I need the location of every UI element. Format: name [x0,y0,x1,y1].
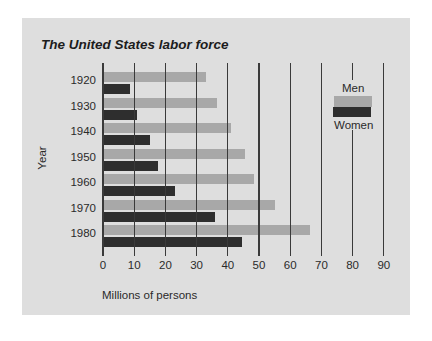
bar-men-1920 [103,72,206,82]
gridline-0 [102,63,103,256]
legend-label-women: Women [334,119,373,131]
y-tick-label: 1950 [62,151,96,163]
bar-women-1980 [103,237,242,247]
bar-men-1970 [103,200,275,210]
gridline-10 [134,63,135,256]
y-tick-label: 1970 [62,202,96,214]
x-tick-label: 50 [244,259,274,271]
bar-men-1950 [103,149,245,159]
bar-men-1930 [103,98,217,108]
legend-swatch-men [334,96,372,107]
gridline-30 [196,63,197,256]
gridline-90 [383,63,384,256]
bar-men-1940 [103,123,231,133]
y-tick-label: 1940 [62,125,96,137]
gridline-40 [227,63,228,256]
y-tick-label: 1960 [62,176,96,188]
x-tick-label: 30 [182,259,212,271]
gridline-60 [290,63,291,256]
bar-women-1920 [103,84,130,94]
x-tick-label: 40 [213,259,243,271]
x-tick-label: 70 [306,259,336,271]
x-tick-label: 80 [338,259,368,271]
x-tick-label: 90 [369,259,399,271]
gridline-50 [258,63,259,256]
legend-label-men: Men [342,82,364,94]
x-tick-label: 0 [88,259,118,271]
bar-men-1960 [103,174,254,184]
x-tick-label: 10 [119,259,149,271]
y-axis-title: Year [36,138,48,178]
bar-women-1940 [103,135,150,145]
y-tick-label: 1980 [62,227,96,239]
gridline-20 [165,63,166,256]
x-axis-title: Millions of persons [102,289,197,301]
x-tick-label: 20 [150,259,180,271]
bar-women-1970 [103,212,215,222]
gridline-70 [321,63,322,256]
x-tick-label: 60 [275,259,305,271]
bar-women-1930 [103,110,137,120]
y-tick-label: 1920 [62,74,96,86]
y-tick-label: 1930 [62,100,96,112]
legend-swatch-women [333,107,371,117]
chart-title: The United States labor force [41,37,229,52]
bar-women-1950 [103,161,158,171]
